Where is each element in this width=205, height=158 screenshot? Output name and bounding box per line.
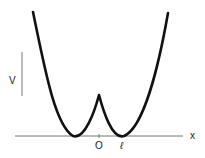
- x-axis-label: x: [190, 131, 195, 141]
- y-axis-label: V: [9, 76, 16, 86]
- origin-label: O: [95, 141, 103, 151]
- well-position-label: ℓ: [120, 141, 123, 151]
- potential-plot: [0, 0, 205, 158]
- potential-curve: [33, 12, 168, 136]
- double-well-diagram: V x O ℓ: [0, 0, 205, 158]
